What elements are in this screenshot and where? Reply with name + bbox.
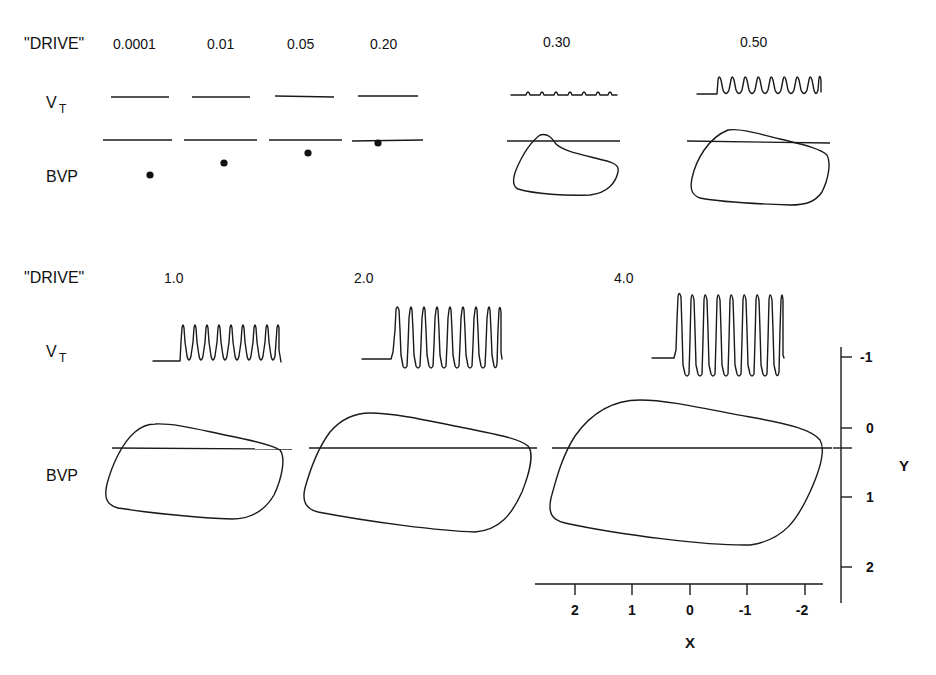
vt-traces-flat [111, 96, 418, 97]
bvp-loop-1-0 [106, 424, 283, 519]
vt-trace-0-50 [697, 76, 821, 94]
bvp-line [112, 448, 292, 449]
y-tick-label: 1 [866, 489, 874, 505]
vt-label-text: V [46, 94, 57, 111]
figure: "DRIVE" 0.0001 0.01 0.05 0.20 0.30 0.50 … [0, 0, 936, 675]
x-tick-label: 2 [571, 602, 579, 618]
bvp-label-top: BVP [46, 168, 78, 185]
vt-label-subscript: T [59, 351, 67, 365]
drive-value: 0.50 [740, 34, 767, 50]
bvp-label-bottom: BVP [46, 467, 78, 484]
fixed-point [220, 159, 227, 166]
vt-label-text: V [46, 343, 57, 360]
drive-label-top: "DRIVE" [24, 35, 84, 52]
fixed-point [146, 171, 153, 178]
fixed-point [304, 149, 311, 156]
bvp-loop-0-30 [514, 135, 619, 196]
x-axis: 2 1 0 -1 -2 X [535, 584, 823, 651]
drive-value: 0.01 [207, 36, 234, 52]
vt-trace-2-0 [362, 307, 502, 368]
y-axis-title: Y [899, 457, 909, 474]
drive-label-bottom: "DRIVE" [24, 269, 84, 286]
fixed-point [374, 139, 381, 146]
x-tick-label: -2 [796, 602, 809, 618]
drive-value: 0.0001 [113, 36, 156, 52]
drive-value: 1.0 [164, 270, 184, 286]
bvp-line [352, 140, 423, 141]
drive-value: 4.0 [614, 270, 634, 286]
vt-label-top: V T [46, 94, 67, 116]
drive-value: 0.05 [287, 36, 314, 52]
x-tick-label: 0 [686, 602, 694, 618]
vt-trace-1-0 [153, 325, 281, 362]
bvp-reference-lines-top [103, 140, 830, 143]
vt-trace-0-30 [511, 92, 617, 95]
y-tick-label: 2 [866, 559, 874, 575]
x-tick-label: 1 [628, 602, 636, 618]
y-tick-label: -1 [860, 349, 873, 365]
vt-trace [275, 96, 334, 97]
drive-value: 0.20 [370, 36, 397, 52]
y-axis: -1 0 1 2 Y [833, 347, 909, 603]
y-tick-label: 0 [866, 420, 874, 436]
vt-trace-4-0 [652, 294, 784, 377]
drive-value: 2.0 [354, 270, 374, 286]
vt-label-subscript: T [59, 102, 67, 116]
x-tick-label: -1 [739, 602, 752, 618]
x-axis-title: X [685, 634, 695, 651]
fixed-points [146, 139, 381, 178]
bvp-loop-4-0 [550, 400, 822, 545]
vt-label-bottom: V T [46, 343, 67, 365]
drive-value: 0.30 [543, 34, 570, 50]
bvp-line [687, 141, 830, 143]
bvp-loop-2-0 [304, 413, 531, 532]
bvp-loop-0-50 [691, 130, 829, 205]
